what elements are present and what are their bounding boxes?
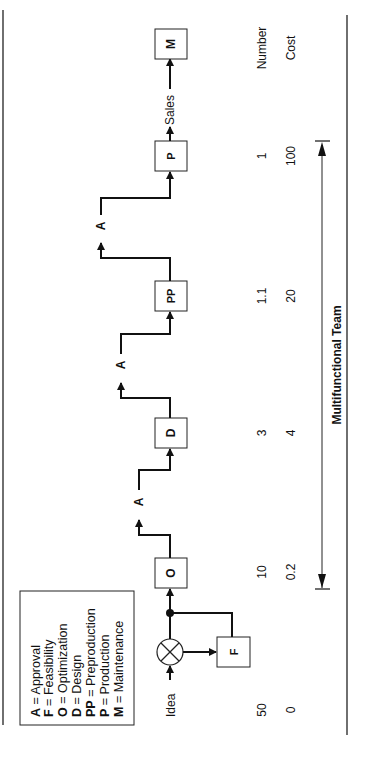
svg-text:M: M <box>164 39 178 49</box>
line-pp-to-approval <box>101 243 170 281</box>
number-value: 1 <box>255 152 269 159</box>
approval-gate-3: A <box>94 221 108 230</box>
approval-gate-1: A <box>132 497 146 506</box>
node-maintenance: M <box>155 29 187 59</box>
number-value: 10 <box>255 565 269 579</box>
number-value: 1.1 <box>255 287 269 304</box>
legend: A = Approval F = Feasibility O = Optimiz… <box>20 591 134 725</box>
svg-text:F = Feasibility: F = Feasibility <box>42 639 56 717</box>
team-label: Multifunctional Team <box>330 305 344 424</box>
decision-node-icon <box>157 639 183 665</box>
svg-text:F: F <box>228 648 240 655</box>
svg-text:O: O <box>164 568 178 577</box>
svg-text:A = Approval: A = Approval <box>29 645 43 717</box>
number-value: 50 <box>255 703 269 717</box>
svg-text:M = Maintenance: M = Maintenance <box>112 621 126 717</box>
cost-value: 100 <box>284 146 298 166</box>
svg-text:O = Optimization: O = Optimization <box>56 623 70 717</box>
svg-text:PP: PP <box>165 289 177 304</box>
svg-text:P: P <box>165 152 177 159</box>
line-approval-to-d <box>139 449 170 490</box>
team-span-arrow <box>315 141 330 589</box>
sales-label: Sales <box>163 95 177 125</box>
cost-value: 0.2 <box>284 563 298 580</box>
node-optimization: O <box>155 558 187 588</box>
node-feasibility: F <box>217 637 250 667</box>
line-o-to-approval <box>139 520 170 558</box>
line-approval-to-p <box>101 172 170 215</box>
line-approval-to-pp <box>121 312 170 354</box>
feasibility-return-line <box>170 613 232 637</box>
approval-gate-2: A <box>114 360 128 369</box>
node-preproduction: PP <box>155 281 187 311</box>
svg-text:P = Production: P = Production <box>98 635 112 717</box>
svg-text:D: D <box>164 428 178 437</box>
node-production: P <box>155 141 187 171</box>
cost-value: 0 <box>284 706 298 713</box>
cost-value: 4 <box>284 429 298 436</box>
line-d-to-approval <box>121 383 170 418</box>
cost-row-label: Cost <box>284 35 298 60</box>
stage-gate-diagram: A = Approval F = Feasibility O = Optimiz… <box>0 0 366 761</box>
cost-value: 20 <box>284 289 298 303</box>
node-design: D <box>155 418 187 448</box>
idea-label: Idea <box>164 693 178 717</box>
number-row-label: Number <box>255 27 269 70</box>
number-value: 3 <box>255 429 269 436</box>
svg-text:D = Design: D = Design <box>70 655 84 717</box>
svg-text:PP = Preproduction: PP = Preproduction <box>84 608 98 717</box>
